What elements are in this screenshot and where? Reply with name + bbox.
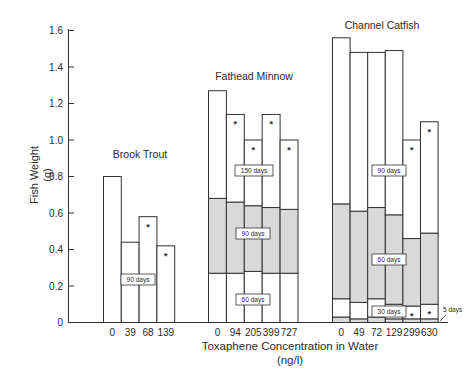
x-category-label: 129 bbox=[386, 327, 403, 338]
significance-marker: * bbox=[428, 127, 432, 137]
svg-text:90 days: 90 days bbox=[242, 230, 266, 238]
significance-marker: * bbox=[410, 311, 414, 321]
bar-segment bbox=[403, 239, 421, 307]
y-tick-label: 1.6 bbox=[49, 25, 63, 36]
bar-segment bbox=[139, 217, 157, 323]
series-label-box: 90 days bbox=[236, 228, 270, 239]
group-channel-catfish: **** bbox=[333, 38, 439, 323]
y-tick-label: 1.0 bbox=[49, 135, 63, 146]
fish-weight-chart: 00.20.40.60.81.01.21.41.6 ********** Bro… bbox=[0, 0, 470, 377]
svg-text:90 days: 90 days bbox=[127, 276, 151, 284]
group-title: Brook Trout bbox=[113, 148, 167, 160]
bar-segment bbox=[368, 52, 386, 207]
annotation-arrow bbox=[440, 315, 446, 321]
svg-text:60 days: 60 days bbox=[242, 296, 266, 304]
y-tick-label: 1.4 bbox=[49, 62, 63, 73]
series-label-box: 60 days bbox=[372, 254, 406, 265]
significance-marker: * bbox=[146, 222, 150, 232]
x-category-label: 72 bbox=[371, 327, 383, 338]
bar-segment bbox=[385, 51, 403, 215]
series-label-box: 60 days bbox=[236, 294, 270, 305]
y-tick-label: 0.4 bbox=[49, 244, 63, 255]
x-category-label: 0 bbox=[339, 327, 345, 338]
series-label-box: 150 days bbox=[235, 165, 273, 176]
bar-segment bbox=[209, 198, 227, 273]
x-axis-title: Toxaphene Concentration in Water bbox=[202, 340, 379, 352]
bar-segment bbox=[368, 208, 386, 299]
group-title: Channel Catfish bbox=[345, 19, 420, 31]
y-tick-label: 0.6 bbox=[49, 208, 63, 219]
significance-marker: * bbox=[234, 119, 238, 129]
x-category-label: 139 bbox=[157, 327, 174, 338]
significance-marker: * bbox=[287, 145, 291, 155]
x-category-label: 205 bbox=[245, 327, 262, 338]
group-fathead-minnow: **** bbox=[209, 91, 299, 323]
x-category-label: 299 bbox=[403, 327, 420, 338]
group-title: Fathead Minnow bbox=[215, 70, 293, 82]
y-axis-units-text: (g) bbox=[41, 168, 53, 181]
bar-segment bbox=[104, 177, 122, 323]
x-category-label: 39 bbox=[125, 327, 137, 338]
x-axis-units: (ng/l) bbox=[277, 354, 303, 366]
y-tick-label: 0 bbox=[57, 317, 63, 328]
bar-segment bbox=[421, 122, 439, 233]
x-category-label: 0 bbox=[110, 327, 116, 338]
bar-segment bbox=[350, 319, 368, 323]
x-category-label: 49 bbox=[353, 327, 365, 338]
svg-text:30 days: 30 days bbox=[378, 308, 402, 316]
x-category-label: 727 bbox=[281, 327, 298, 338]
bar-segment bbox=[350, 211, 368, 302]
y-axis-title: Fish Weight (g) bbox=[28, 146, 53, 204]
bar-segment bbox=[385, 319, 403, 323]
y-axis-title-text: Fish Weight bbox=[28, 146, 40, 204]
significance-marker: * bbox=[410, 145, 414, 155]
significance-marker: * bbox=[164, 251, 168, 261]
bar-segment bbox=[333, 317, 351, 322]
significance-marker: * bbox=[269, 119, 273, 129]
x-category-label: 399 bbox=[263, 327, 280, 338]
series-label-5-days: 5 days bbox=[443, 306, 463, 314]
svg-text:60 days: 60 days bbox=[378, 256, 402, 264]
x-category-label: 68 bbox=[142, 327, 154, 338]
bar-segment bbox=[333, 299, 351, 317]
bar-segment bbox=[421, 233, 439, 304]
bar-segment bbox=[333, 204, 351, 299]
y-tick-label: 0.2 bbox=[49, 281, 63, 292]
series-label-box: 30 days bbox=[372, 306, 406, 317]
bar-segment bbox=[209, 91, 227, 199]
significance-marker: * bbox=[428, 309, 432, 319]
svg-text:150 days: 150 days bbox=[241, 167, 268, 175]
x-category-label: 630 bbox=[421, 327, 438, 338]
x-category-label: 0 bbox=[215, 327, 221, 338]
svg-text:90 days: 90 days bbox=[378, 167, 402, 175]
group-brook-trout: ** bbox=[104, 177, 175, 323]
bar-segment bbox=[368, 317, 386, 322]
y-tick-label: 1.2 bbox=[49, 98, 63, 109]
bar-segment bbox=[350, 302, 368, 318]
bar-segment bbox=[280, 273, 298, 322]
x-category-label: 94 bbox=[230, 327, 242, 338]
bar-segment bbox=[350, 52, 368, 211]
bar-segment bbox=[209, 273, 227, 322]
bar-segment bbox=[421, 319, 439, 323]
series-label-box: 90 days bbox=[121, 274, 155, 285]
series-label-box: 90 days bbox=[372, 165, 406, 176]
bar-segment bbox=[262, 208, 280, 274]
bar-segment bbox=[280, 209, 298, 273]
bar-segment bbox=[333, 38, 351, 204]
significance-marker: * bbox=[251, 145, 255, 155]
